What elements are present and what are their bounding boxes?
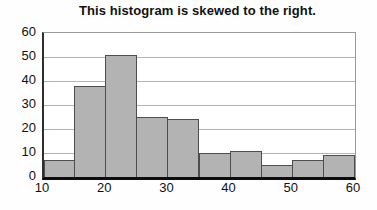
bar-35-40: [199, 153, 231, 177]
x-tick-label-20: 20: [97, 181, 111, 195]
y-tick-label-10: 10: [0, 145, 36, 159]
x-tick-label-40: 40: [221, 181, 235, 195]
plot-area: [42, 32, 356, 180]
x-tick-label-50: 50: [284, 181, 298, 195]
x-tick-label-60: 60: [346, 181, 360, 195]
bar-15-20: [74, 86, 106, 177]
bar-40-45: [230, 151, 262, 177]
bar-30-35: [167, 119, 199, 177]
bar-50-55: [292, 160, 324, 177]
y-tick-label-60: 60: [0, 25, 36, 39]
bar-55-60: [323, 155, 355, 177]
bar-25-30: [136, 117, 168, 177]
bar-20-25: [105, 55, 137, 177]
histogram-figure: This histogram is skewed to the right. 0…: [0, 0, 377, 210]
x-tick-label-30: 30: [159, 181, 173, 195]
gridline-y-50: [44, 57, 355, 58]
y-tick-label-50: 50: [0, 49, 36, 63]
x-tick-label-10: 10: [35, 181, 49, 195]
y-tick-label-40: 40: [0, 73, 36, 87]
y-tick-label-30: 30: [0, 97, 36, 111]
gridline-y-40: [44, 81, 355, 82]
chart-title: This histogram is skewed to the right.: [42, 3, 353, 18]
y-tick-label-0: 0: [0, 169, 36, 183]
bar-45-50: [261, 165, 293, 177]
bar-10-15: [44, 160, 75, 177]
y-tick-label-20: 20: [0, 121, 36, 135]
